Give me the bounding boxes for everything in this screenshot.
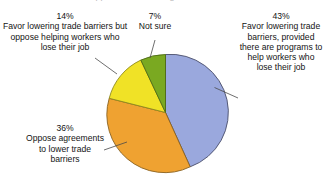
slice-percent-favor-with-programs: 43% <box>239 11 323 21</box>
leader-line-yellow <box>95 58 117 74</box>
slice-desc-favor-with-programs: Favor lowering trade barriers, provided … <box>239 21 323 72</box>
slice-percent-favor-no-help: 14% <box>2 11 128 21</box>
slice-desc-not-sure: Not sure <box>122 21 188 31</box>
slice-label-not-sure: 7% Not sure <box>122 11 188 32</box>
slice-label-oppose-agreements: 36% Oppose agreements to lower trade bar… <box>24 123 106 164</box>
slice-desc-favor-no-help: Favor lowering trade barriers but oppose… <box>2 21 128 52</box>
slice-percent-not-sure: 7% <box>122 11 188 21</box>
slice-desc-oppose-agreements: Oppose agreements to lower trade barrier… <box>24 133 106 164</box>
slice-label-favor-no-help: 14% Favor lowering trade barriers but op… <box>2 11 128 52</box>
slice-label-favor-with-programs: 43% Favor lowering trade barriers, provi… <box>239 11 323 73</box>
slice-percent-oppose-agreements: 36% <box>24 123 106 133</box>
pie-chart: approval of lowering trade barriers 14% … <box>0 0 324 190</box>
